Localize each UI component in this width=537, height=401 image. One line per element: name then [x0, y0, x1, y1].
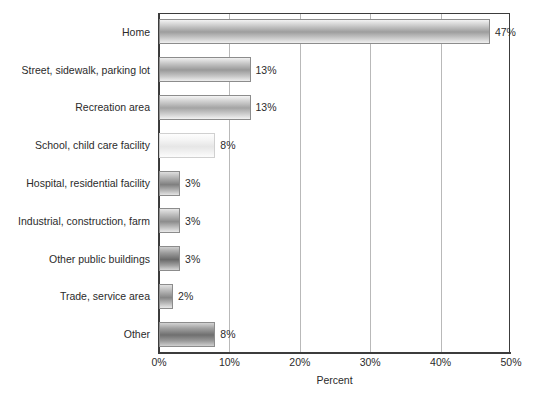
- x-tick-label: 10%: [219, 356, 240, 368]
- category-label: Recreation area: [0, 89, 150, 127]
- bar-value-label: 8%: [220, 328, 235, 340]
- bar-container: 13%: [159, 51, 277, 89]
- bar-segment[interactable]: [159, 95, 251, 120]
- bar-value-label: 47%: [495, 26, 516, 38]
- bar-segment[interactable]: [159, 246, 180, 271]
- x-tick-label: 40%: [430, 356, 451, 368]
- bar-row: Home 47%: [0, 13, 537, 51]
- bar-segment[interactable]: [159, 208, 180, 233]
- bar-row: Industrial, construction, farm 3%: [0, 202, 537, 240]
- bar-row: Other 8%: [0, 315, 537, 353]
- category-label: Other public buildings: [0, 240, 150, 278]
- bar-container: 3%: [159, 240, 200, 278]
- bar-container: 2%: [159, 278, 193, 316]
- bar-container: 47%: [159, 13, 516, 51]
- x-axis-title: Percent: [158, 374, 511, 386]
- bar-value-label: 2%: [178, 290, 193, 302]
- bar-segment[interactable]: [159, 284, 173, 309]
- x-tick-label: 20%: [289, 356, 310, 368]
- x-tick-label: 30%: [360, 356, 381, 368]
- bar-container: 8%: [159, 315, 235, 353]
- bar-segment[interactable]: [159, 57, 251, 82]
- bar-value-label: 3%: [185, 215, 200, 227]
- x-tick-label: 50%: [500, 356, 521, 368]
- bar-container: 8%: [159, 126, 235, 164]
- bar-value-label: 3%: [185, 177, 200, 189]
- x-axis-ticks: 0% 10% 20% 30% 40% 50%: [0, 356, 537, 372]
- bar-row: Street, sidewalk, parking lot 13%: [0, 51, 537, 89]
- category-label: Trade, service area: [0, 278, 150, 316]
- bar-value-label: 3%: [185, 253, 200, 265]
- bar-segment[interactable]: [159, 171, 180, 196]
- category-label: Other: [0, 315, 150, 353]
- bar-row: Recreation area 13%: [0, 89, 537, 127]
- category-label: Industrial, construction, farm: [0, 202, 150, 240]
- x-tick-label: 0%: [151, 356, 166, 368]
- bar-segment[interactable]: [159, 322, 215, 347]
- bar-value-label: 13%: [256, 64, 277, 76]
- bar-container: 13%: [159, 89, 277, 127]
- bar-row: Other public buildings 3%: [0, 240, 537, 278]
- category-label: Hospital, residential facility: [0, 164, 150, 202]
- bar-segment[interactable]: [159, 133, 215, 158]
- bar-container: 3%: [159, 164, 200, 202]
- bar-row: Trade, service area 2%: [0, 278, 537, 316]
- bar-value-label: 13%: [256, 101, 277, 113]
- bar-chart: Home 47% Street, sidewalk, parking lot 1…: [0, 0, 537, 401]
- category-label: Street, sidewalk, parking lot: [0, 51, 150, 89]
- bar-container: 3%: [159, 202, 200, 240]
- bar-row: Hospital, residential facility 3%: [0, 164, 537, 202]
- bar-row: School, child care facility 8%: [0, 126, 537, 164]
- category-label: School, child care facility: [0, 126, 150, 164]
- bar-value-label: 8%: [220, 139, 235, 151]
- bar-segment[interactable]: [159, 19, 490, 44]
- category-label: Home: [0, 13, 150, 51]
